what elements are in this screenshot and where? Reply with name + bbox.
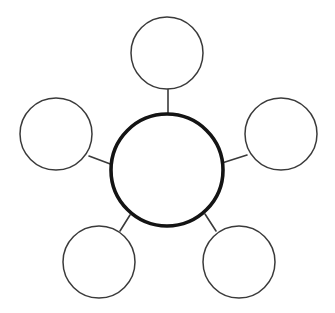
center-node-circle-center[interactable] [111,114,223,226]
satellite-node-circle-right[interactable] [245,98,317,170]
bubble-map-canvas [0,0,335,313]
satellite-node-top[interactable] [131,17,203,89]
satellite-node-right[interactable] [245,98,317,170]
satellite-node-bottom-left[interactable] [63,226,135,298]
satellite-node-circle-bottom-left[interactable] [63,226,135,298]
satellite-node-bottom-right[interactable] [203,226,275,298]
center-node-layer [111,114,223,226]
satellite-node-left[interactable] [20,98,92,170]
center-node-center[interactable] [111,114,223,226]
satellite-node-circle-top[interactable] [131,17,203,89]
satellite-node-circle-left[interactable] [20,98,92,170]
satellite-node-circle-bottom-right[interactable] [203,226,275,298]
bubble-map-diagram [0,0,335,313]
